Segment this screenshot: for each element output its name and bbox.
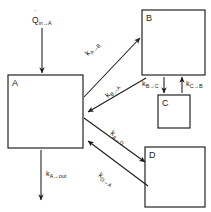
rate-subscript-k_D_to_A: D→A xyxy=(99,176,113,189)
rate-label-k_D_to_A: kD→A xyxy=(96,170,116,188)
heat-rate-overdot: ˙ xyxy=(35,9,38,18)
rate-subscript-k_A_to_B: A→B xyxy=(89,42,102,56)
rate-label-k_A_to_B: kA→B xyxy=(83,39,102,58)
arrow-k_D_to_A xyxy=(88,141,148,186)
compartment-boxes: ABCD xyxy=(8,10,205,207)
rate-label-k_C_to_B: kC→B xyxy=(186,79,203,89)
heat-input-group: Qin→A˙ xyxy=(32,9,52,26)
heat-subscript: in→A xyxy=(39,20,53,26)
compartment-label-A: A xyxy=(12,78,18,88)
rate-subscript-k_C_to_B: C→B xyxy=(190,83,203,89)
svg-text:kD→A: kD→A xyxy=(96,170,116,188)
compartment-label-B: B xyxy=(146,13,152,23)
svg-text:kA→B: kA→B xyxy=(83,39,102,58)
svg-text:kA→D: kA→D xyxy=(108,128,127,146)
rate-subscript-k_A_to_D: A→D xyxy=(111,134,125,146)
rate-label-k_B_to_C: kB→C xyxy=(142,79,159,89)
rate-label-k_A_to_out: kA→out xyxy=(46,169,67,179)
rate-label-k_B_to_A: kB→A xyxy=(103,81,122,100)
diagram-canvas: ABCD kA→BkB→AkB→CkC→BkA→DkD→AkA→out Qin→… xyxy=(0,0,211,212)
compartment-diagram: ABCD kA→BkB→AkB→CkC→BkA→DkD→AkA→out Qin→… xyxy=(0,0,211,212)
svg-text:kA→out: kA→out xyxy=(46,169,67,179)
compartment-box-A xyxy=(8,75,83,148)
rate-subscript-k_B_to_C: B→C xyxy=(146,83,159,89)
svg-text:kB→A: kB→A xyxy=(103,81,122,100)
rate-subscript-k_A_to_out: A→out xyxy=(50,173,67,179)
rate-label-k_A_to_D: kA→D xyxy=(108,128,127,146)
compartment-label-C: C xyxy=(162,98,169,108)
svg-text:kB→C: kB→C xyxy=(142,79,159,89)
compartment-label-D: D xyxy=(149,150,156,160)
svg-text:kC→B: kC→B xyxy=(186,79,203,89)
